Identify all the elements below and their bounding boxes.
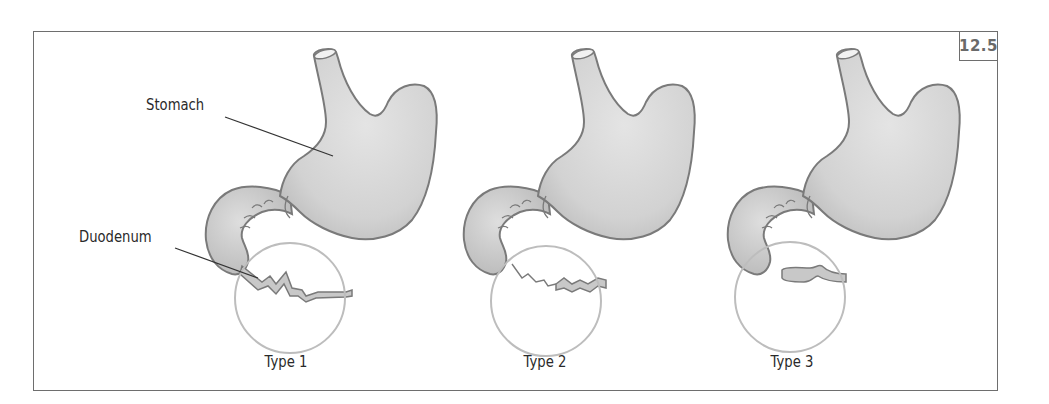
- duodenum-label: Duodenum: [79, 228, 152, 246]
- stomach-label: Stomach: [146, 96, 204, 114]
- panel-type2: [464, 47, 695, 356]
- caption-type3: Type 3: [771, 353, 814, 371]
- panel-type3: [728, 47, 960, 352]
- panel-type1: [206, 47, 437, 353]
- caption-type1: Type 1: [265, 353, 308, 371]
- stomach-leader-line: [225, 117, 333, 156]
- diagram-artwork: [0, 0, 1049, 404]
- caption-type2: Type 2: [524, 353, 567, 371]
